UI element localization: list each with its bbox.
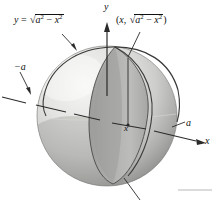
point-a-exp: 2: [140, 13, 143, 20]
point-close-paren: ): [163, 14, 166, 25]
x-tick-label: x: [124, 124, 128, 133]
point-radical: √a2 − x2: [129, 14, 163, 25]
y-axis-label: y: [104, 2, 108, 12]
x-axis-label: x: [205, 136, 209, 146]
y-axis-arrowhead: [104, 22, 110, 32]
x-axis-dash-1: [2, 97, 26, 103]
curve-eq-radicand: a2 − x2: [35, 14, 64, 25]
curve-eq-x-exp: 2: [59, 13, 62, 20]
negative-a-label: −a: [14, 62, 26, 72]
curve-eq-y: y: [14, 14, 18, 25]
curve-equation-label: y = √a2 − x2: [14, 14, 64, 25]
curve-eq-radical: √a2 − x2: [29, 14, 63, 25]
point-x-exp: 2: [159, 13, 162, 20]
curve-eq-equals: =: [21, 14, 27, 25]
figure-canvas: [0, 0, 216, 202]
point-radicand: a2 − x2: [134, 14, 163, 25]
leader-neg-a-arrowhead: [26, 87, 31, 95]
positive-a-label: a: [186, 118, 191, 128]
sphere-volume-figure: y = √a2 − x2 (x, √a2 − x2 ) y x −a a x: [0, 0, 216, 202]
curve-eq-a-exp: 2: [41, 13, 44, 20]
right-meridian-arc: [177, 90, 179, 122]
point-comma: ,: [124, 14, 127, 25]
point-coordinate-label: (x, √a2 − x2 ): [116, 14, 167, 25]
right-arc-tail: [177, 90, 179, 122]
point-minus: −: [146, 14, 152, 25]
curve-eq-minus: −: [47, 14, 53, 25]
